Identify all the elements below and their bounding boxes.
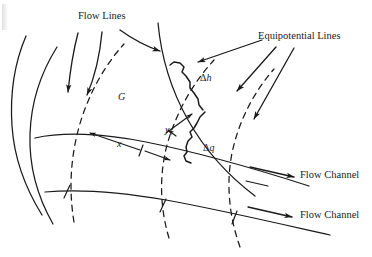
leader-equipotential-1 <box>198 40 262 62</box>
label-equipotential-lines: Equipotential Lines <box>258 31 341 42</box>
label-flow-channel-lower: Flow Channel <box>300 210 359 221</box>
intersection-ticks <box>64 181 268 224</box>
leader-flow-channel-upper <box>250 167 294 177</box>
leader-flow-channel-lower <box>248 207 292 217</box>
flow-line-curve-4 <box>45 191 330 235</box>
leader-flow-lines-2 <box>87 32 102 95</box>
delta-q-variable: q <box>209 142 214 153</box>
label-dimension-x: x <box>117 139 121 149</box>
leader-flow-lines-1 <box>68 33 78 92</box>
label-field-g: G <box>118 92 125 102</box>
delta-h-bracket <box>170 62 203 110</box>
label-flow-channel-upper: Flow Channel <box>300 170 359 181</box>
leader-flow-lines-3 <box>120 30 160 51</box>
label-delta-q: Δq <box>203 143 214 153</box>
leader-equipotential-2 <box>237 47 276 91</box>
equipotential-curve-1 <box>71 44 124 222</box>
leader-equipotential-3 <box>254 48 294 119</box>
dimension-arrow-y <box>166 114 192 133</box>
flow-line-curve-3 <box>35 134 309 186</box>
label-delta-h: Δh <box>200 73 211 83</box>
label-flow-lines: Flow Lines <box>78 11 126 22</box>
dimension-arrow-x <box>90 133 170 160</box>
flow-net-figure: Flow Lines Equipotential Lines Flow Chan… <box>0 0 372 257</box>
label-dimension-y: y <box>165 125 169 135</box>
delta-h-variable: h <box>206 72 211 83</box>
flow-line-curve-5 <box>158 23 255 196</box>
